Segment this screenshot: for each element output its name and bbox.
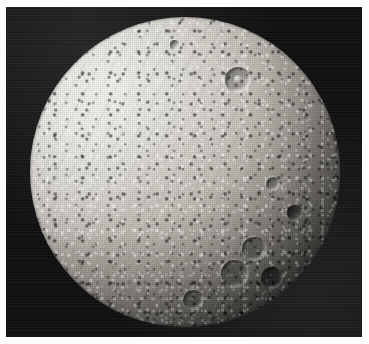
crater-large-crater-lower-right-b (221, 260, 249, 288)
limb-edge (30, 17, 340, 327)
moon-disk (30, 17, 340, 327)
crater-right-limb-upper (287, 205, 303, 221)
linear-grooves-texture (30, 17, 253, 327)
crater-large-crater-lower-right-a (242, 237, 266, 261)
crater-lower-centre (183, 290, 203, 310)
crater-central-peak-crater (225, 67, 251, 93)
photograph (6, 7, 362, 337)
crater-small-crater-top (170, 40, 179, 49)
crater-field-texture (30, 17, 340, 327)
bright-smooth-plains-region (30, 29, 204, 289)
terminator-shading (30, 17, 340, 327)
crater-large-crater-lower-right-c (261, 267, 283, 289)
dense-crater-field-region (30, 17, 340, 327)
crater-mid-right (266, 177, 280, 191)
photo-page (0, 0, 369, 344)
